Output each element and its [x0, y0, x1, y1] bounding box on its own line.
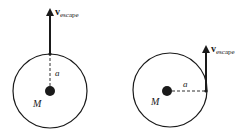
tangential-launch-diagram: vescape a M — [133, 43, 235, 127]
radial-launch-diagram: vescape a M — [13, 6, 87, 128]
mass-dot — [162, 86, 172, 96]
escape-velocity-diagram: vescape a M vescape a M — [0, 0, 245, 137]
velocity-label: vescape — [211, 43, 235, 56]
mass-dot — [45, 86, 55, 96]
mass-label: M — [150, 96, 160, 107]
mass-label: M — [32, 98, 42, 109]
velocity-label: vescape — [55, 6, 79, 19]
radius-label: a — [183, 79, 188, 89]
radius-label: a — [55, 68, 60, 78]
